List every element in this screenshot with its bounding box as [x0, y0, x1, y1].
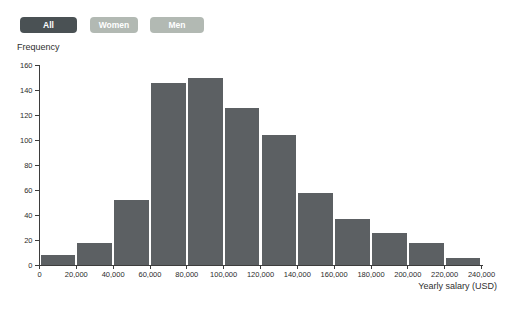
x-tick-label: 240,000: [460, 271, 504, 279]
y-axis-tick: [35, 215, 39, 216]
y-tick-label: 20: [9, 237, 33, 245]
x-axis-tick: [481, 266, 482, 269]
histogram-bar[interactable]: [188, 78, 223, 266]
y-axis-tick: [35, 115, 39, 116]
y-tick-label: 40: [9, 212, 33, 220]
x-axis-tick: [113, 266, 114, 269]
histogram-bar[interactable]: [77, 243, 112, 266]
y-tick-label: 160: [9, 62, 33, 70]
histogram-chart: 020406080100120140160020,00040,00060,000…: [0, 0, 513, 313]
y-axis-tick: [35, 190, 39, 191]
x-axis-title: Yearly salary (USD): [0, 281, 497, 291]
x-axis-tick: [260, 266, 261, 269]
y-tick-label: 120: [9, 112, 33, 120]
x-axis-tick: [150, 266, 151, 269]
x-axis-tick: [407, 266, 408, 269]
y-axis-tick: [35, 90, 39, 91]
histogram-bar[interactable]: [225, 108, 260, 266]
y-axis-tick: [35, 240, 39, 241]
histogram-bar[interactable]: [298, 193, 333, 266]
salary-histogram-widget: All Women Men Frequency 0204060801001201…: [0, 0, 513, 313]
y-tick-label: 100: [9, 137, 33, 145]
histogram-bar[interactable]: [335, 219, 370, 265]
x-axis-tick: [76, 266, 77, 269]
histogram-bar[interactable]: [446, 258, 481, 266]
x-axis-tick: [371, 266, 372, 269]
histogram-bar[interactable]: [372, 233, 407, 266]
histogram-bar[interactable]: [114, 200, 149, 265]
x-axis-tick: [223, 266, 224, 269]
y-axis-tick: [35, 65, 39, 66]
x-axis-line: [39, 265, 483, 266]
x-axis-tick: [444, 266, 445, 269]
x-axis-tick: [297, 266, 298, 269]
x-axis-tick: [39, 266, 40, 269]
histogram-bar[interactable]: [41, 255, 76, 265]
y-axis-tick: [35, 165, 39, 166]
x-axis-tick: [334, 266, 335, 269]
y-axis-tick: [35, 140, 39, 141]
y-tick-label: 60: [9, 187, 33, 195]
x-axis-tick: [186, 266, 187, 269]
y-tick-label: 0: [9, 262, 33, 270]
y-axis-line: [39, 65, 40, 266]
histogram-bar[interactable]: [151, 83, 186, 266]
y-tick-label: 140: [9, 87, 33, 95]
histogram-bar[interactable]: [262, 135, 297, 265]
histogram-bar[interactable]: [409, 243, 444, 266]
y-tick-label: 80: [9, 162, 33, 170]
